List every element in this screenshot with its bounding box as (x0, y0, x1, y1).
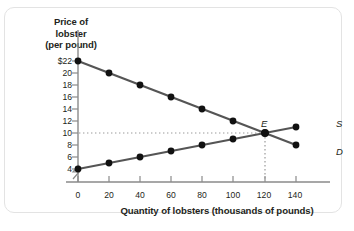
x-axis-ticks (78, 176, 296, 182)
supply-point (168, 148, 175, 155)
chart-plot (0, 0, 354, 231)
supply-point (293, 124, 300, 131)
demand-point (168, 94, 175, 101)
supply-point (137, 154, 144, 161)
demand-point (75, 58, 82, 65)
equilibrium-point (261, 129, 269, 137)
y-axis-ticks (72, 61, 78, 169)
supply-point (230, 136, 237, 143)
chart-figure: Price of lobster (per pound) Quantity of… (0, 0, 354, 231)
demand-point (199, 106, 206, 113)
demand-point (137, 82, 144, 89)
demand-point (230, 118, 237, 125)
supply-point (199, 142, 206, 149)
demand-point (293, 142, 300, 149)
supply-point (75, 166, 82, 173)
supply-point (106, 160, 113, 167)
demand-point (106, 70, 113, 77)
